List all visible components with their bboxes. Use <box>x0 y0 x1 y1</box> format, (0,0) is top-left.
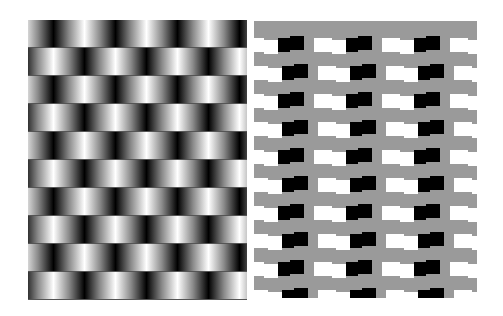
tile-row <box>254 234 477 248</box>
tile-row <box>254 38 477 52</box>
tile-row <box>254 94 477 108</box>
tile-row <box>254 262 477 276</box>
gradient-band-row <box>28 160 247 188</box>
gradient-band-row <box>28 48 247 76</box>
tile-row <box>254 178 477 192</box>
tile-row <box>254 290 477 298</box>
gradient-band-row <box>28 76 247 104</box>
gradient-band-row <box>28 188 247 216</box>
tile-row <box>254 66 477 80</box>
left-gradient-illusion-panel <box>28 20 247 300</box>
gradient-band-row <box>28 216 247 244</box>
gradient-band-row <box>28 104 247 132</box>
right-cafe-wall-illusion-panel <box>254 21 477 298</box>
gradient-band-row <box>28 20 247 48</box>
tile-row <box>254 150 477 164</box>
tile-row <box>254 122 477 136</box>
gradient-band-row <box>28 272 247 300</box>
gradient-band-row <box>28 244 247 272</box>
tile-row <box>254 206 477 220</box>
gradient-band-row <box>28 132 247 160</box>
